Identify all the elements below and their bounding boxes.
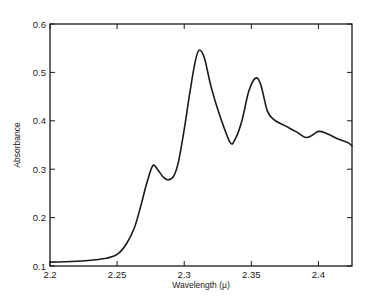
y-axis-label: Absorbance [12,122,22,168]
x-tick-label: 2.25 [108,269,127,280]
y-tick-label: 0.1 [33,261,46,272]
spectrum-line [50,50,352,262]
y-tick-label: 0.2 [33,212,46,223]
x-axis-label: Wavelength (μ) [172,280,230,290]
x-tick-label: 2.4 [312,269,325,280]
y-axis: 0.10.20.30.40.50.6 [33,19,352,272]
absorbance-chart: 2.22.252.32.352.4 0.10.20.30.40.50.6 Wav… [0,0,368,302]
plot-frame [50,24,352,266]
x-axis: 2.22.252.32.352.4 [43,24,325,280]
x-tick-label: 2.3 [178,269,191,280]
y-tick-label: 0.3 [33,164,46,175]
y-tick-label: 0.6 [33,19,46,30]
y-tick-label: 0.4 [33,115,46,126]
x-tick-label: 2.35 [242,269,261,280]
y-tick-label: 0.5 [33,67,46,78]
